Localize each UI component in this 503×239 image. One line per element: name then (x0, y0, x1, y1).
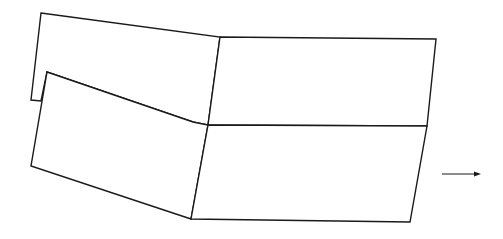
arrow-head (474, 172, 481, 177)
upper-right-panel (208, 37, 436, 126)
diagram-canvas (0, 0, 503, 239)
folded-panels-diagram (0, 0, 503, 239)
lower-right-panel (191, 125, 427, 222)
right-arrow-icon (442, 172, 481, 177)
